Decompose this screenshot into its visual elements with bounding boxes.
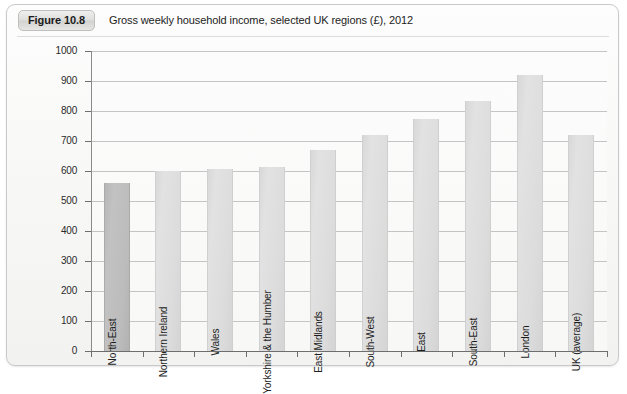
bar: South-West	[362, 135, 388, 351]
bar: South-East	[465, 101, 491, 352]
figure-header: Figure 10.8 Gross weekly household incom…	[7, 5, 618, 35]
x-axis-tick-mark	[452, 352, 453, 357]
bar-chart: 01002003004005006007008009001000 North-E…	[7, 37, 620, 366]
bar: London	[517, 75, 543, 351]
x-axis-tick-mark	[246, 352, 247, 357]
x-axis-tick-mark	[349, 352, 350, 357]
bar: UK (average)	[568, 135, 594, 351]
bar-category-label: East Midlands	[314, 311, 324, 373]
y-axis-tick-label: 700	[33, 135, 77, 146]
y-axis-tick-label: 100	[33, 315, 77, 326]
y-axis-tick-label: 500	[33, 195, 77, 206]
bar-category-label: South-West	[366, 316, 376, 367]
bars-layer: North-EastNorthern IrelandWalesYorkshire…	[91, 51, 608, 351]
bar-category-label: North-East	[108, 319, 118, 366]
bar: East	[413, 119, 439, 352]
x-axis-tick-mark	[555, 352, 556, 357]
bar: Wales	[207, 169, 233, 351]
bar-category-label: UK (average)	[572, 313, 582, 371]
bar: North-East	[104, 183, 130, 351]
figure-caption: Gross weekly household income, selected …	[109, 14, 413, 26]
bar-category-label: Northern Ireland	[159, 307, 169, 378]
x-axis-tick-mark	[194, 352, 195, 357]
bar-category-label: Yorkshire & the Humber	[263, 290, 273, 394]
x-axis-tick-mark	[607, 352, 608, 357]
bar-category-label: South-East	[469, 318, 479, 366]
bar-category-label: London	[521, 326, 531, 359]
figure-number-badge: Figure 10.8	[18, 10, 95, 31]
x-axis-tick-mark	[143, 352, 144, 357]
bar: Northern Ireland	[155, 171, 181, 351]
y-axis-tick-label: 200	[33, 285, 77, 296]
bar: East Midlands	[310, 150, 336, 351]
bar-category-label: East	[417, 332, 427, 352]
x-axis-tick-mark	[91, 352, 92, 357]
y-axis-tick-label: 600	[33, 165, 77, 176]
y-axis-tick-label: 0	[33, 345, 77, 356]
x-axis-tick-mark	[401, 352, 402, 357]
bar: Yorkshire & the Humber	[259, 167, 285, 351]
x-axis-tick-mark	[297, 352, 298, 357]
figure-frame: Figure 10.8 Gross weekly household incom…	[6, 4, 619, 366]
y-axis-tick-label: 300	[33, 255, 77, 266]
x-axis-tick-mark	[504, 352, 505, 357]
y-axis-tick-label: 400	[33, 225, 77, 236]
y-axis-tick-label: 800	[33, 105, 77, 116]
y-axis-tick-label: 1000	[33, 45, 77, 56]
y-axis-tick-label: 900	[33, 75, 77, 86]
